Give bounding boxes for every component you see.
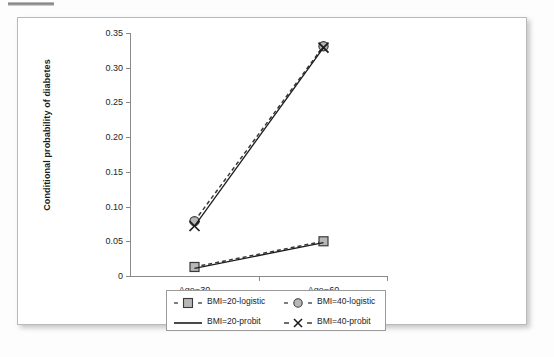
x-axis-tick [387, 276, 388, 281]
legend-item[interactable]: BMI=20-probit [167, 315, 277, 327]
solid-line-key [173, 315, 203, 327]
y-axis-tick-label: 0.20 [105, 132, 123, 142]
legend-item-label: BMI=20-probit [207, 316, 261, 326]
y-axis-tick-label: 0.35 [105, 28, 123, 38]
series-line [195, 241, 324, 267]
legend-item[interactable]: BMI=40-probit [277, 315, 387, 327]
dashed-cross-key [283, 315, 313, 327]
y-axis-tick-label: 0 [118, 271, 123, 281]
y-axis-tick-label: 0.25 [105, 97, 123, 107]
y-axis-tick [126, 276, 130, 277]
screenshot-root: Conditional probability of diabetes 00.0… [0, 0, 554, 357]
series-layer [130, 33, 388, 276]
figure-frame: Conditional probability of diabetes 00.0… [17, 17, 527, 325]
line-chart: Conditional probability of diabetes 00.0… [18, 18, 526, 324]
dashed-circle-key [283, 295, 313, 307]
y-axis-tick-label: 0.10 [105, 202, 123, 212]
y-axis-tick-label: 0.05 [105, 236, 123, 246]
series-BMI=40-probit [190, 43, 329, 231]
dashed-square-key [173, 295, 203, 307]
series-line [195, 46, 324, 221]
data-point-marker [319, 42, 328, 51]
chart-legend: BMI=20-logistic BMI=40-logistic BMI=20-p… [166, 290, 386, 331]
y-axis-title: Conditional probability of diabetes [42, 40, 52, 230]
legend-item-label: BMI=40-probit [317, 316, 371, 326]
scan-artifact-bar [8, 2, 54, 6]
y-axis-tick-label: 0.15 [105, 167, 123, 177]
legend-item[interactable]: BMI=40-logistic [277, 295, 387, 307]
data-point-marker [190, 262, 199, 271]
y-axis-tick-label: 0.30 [105, 63, 123, 73]
series-BMI=20-logistic [190, 237, 328, 272]
legend-item-label: BMI=40-logistic [317, 296, 375, 306]
series-BMI=20-probit [195, 243, 324, 269]
data-point-marker [319, 237, 328, 246]
legend-item[interactable]: BMI=20-logistic [167, 295, 277, 307]
legend-item-label: BMI=20-logistic [207, 296, 265, 306]
plot-area: 00.050.100.150.200.250.300.35 Age=30Age=… [130, 33, 388, 276]
series-line [195, 243, 324, 269]
x-axis-tick [259, 276, 260, 281]
series-line [195, 48, 324, 226]
